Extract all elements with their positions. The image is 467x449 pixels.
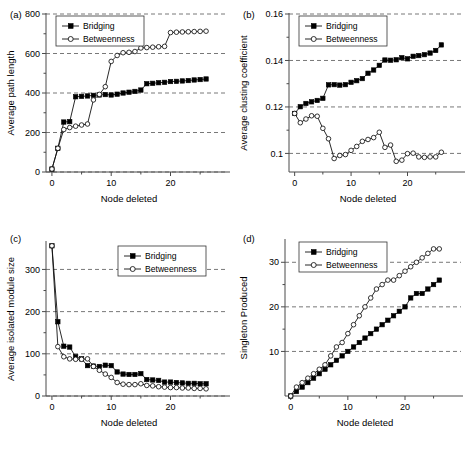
data-point (162, 380, 166, 384)
data-point (186, 78, 190, 82)
data-point (109, 363, 113, 367)
data-point (391, 314, 395, 318)
data-point (198, 29, 203, 34)
y-tick-label: 30 (269, 257, 279, 267)
data-point (315, 98, 319, 102)
data-point (414, 291, 418, 295)
y-axis-title: Average clusting coefficient (238, 35, 249, 151)
data-point (127, 372, 131, 376)
data-point (198, 382, 202, 386)
data-point (349, 148, 354, 153)
data-point (422, 155, 427, 160)
data-point (168, 79, 172, 83)
data-point (162, 385, 167, 390)
panel-label: (a) (10, 9, 22, 20)
chart-svg-a: 020040060080001020Node deletedAverage pa… (0, 0, 233, 224)
x-tick-label: 0 (49, 178, 54, 188)
data-point (192, 78, 196, 82)
data-point (380, 322, 384, 326)
data-point (360, 76, 364, 80)
data-point (332, 156, 337, 161)
data-point (73, 124, 78, 129)
data-point (139, 371, 143, 375)
data-point (103, 372, 108, 377)
data-point (388, 143, 393, 148)
data-point (304, 101, 308, 105)
data-point (97, 368, 102, 373)
data-point (355, 78, 359, 82)
data-point (371, 135, 376, 140)
data-point (133, 372, 137, 376)
legend-label: Betweenness (145, 264, 197, 274)
y-tick-label: 300 (25, 265, 40, 275)
legend-marker-bridging (311, 24, 316, 29)
legend-marker-bridging (130, 254, 135, 259)
data-point (403, 269, 408, 274)
data-point (386, 318, 390, 322)
y-tick-label: 0.16 (265, 9, 283, 19)
data-point (357, 340, 361, 344)
x-ticks-a: 01020 (49, 172, 200, 188)
data-point (351, 322, 356, 327)
series-betweenness (292, 111, 443, 163)
y-ticks-b: 0.10.120.140.16 (265, 9, 289, 158)
data-point (431, 247, 436, 252)
data-point (121, 372, 125, 376)
x-tick-label: 20 (165, 402, 175, 412)
y-tick-label: 200 (25, 307, 40, 317)
gridlines-d (285, 262, 461, 351)
data-point (103, 363, 107, 367)
series-betweenness (50, 29, 209, 171)
data-point (397, 273, 402, 278)
data-point (357, 313, 362, 318)
data-point (156, 384, 161, 389)
data-point (50, 244, 55, 249)
data-point (288, 394, 293, 399)
data-point (411, 151, 416, 156)
data-point (439, 150, 444, 155)
y-tick-label: 600 (25, 49, 40, 59)
y-tick-label: 0.1 (270, 149, 283, 159)
chart-svg-d: 10203001020Node deletedSingleton Produce… (233, 224, 466, 448)
data-point (121, 91, 125, 95)
y-ticks-c: 0100200300 (25, 265, 46, 402)
legend-marker-betweenness (311, 37, 316, 42)
legend-label: Bridging (145, 251, 177, 261)
legend-marker-bridging (311, 250, 316, 255)
data-point (192, 386, 197, 391)
panel-label: (d) (243, 233, 255, 244)
gridlines-c (46, 269, 228, 396)
data-point (354, 144, 359, 149)
data-point (403, 305, 407, 309)
data-point (192, 29, 197, 34)
data-point (321, 126, 326, 131)
data-point (109, 93, 113, 97)
data-point (411, 54, 415, 58)
y-axis-title: Average path length (5, 51, 16, 136)
data-point (360, 139, 365, 144)
x-ticks-b: 01020 (292, 172, 436, 188)
data-point (329, 363, 333, 367)
data-point (433, 155, 438, 160)
data-point (79, 357, 84, 362)
data-point (383, 145, 388, 150)
data-point (298, 105, 302, 109)
data-point (127, 90, 131, 94)
data-point (133, 49, 138, 54)
data-point (340, 354, 344, 358)
x-tick-label: 10 (346, 178, 356, 188)
y-tick-label: 0 (35, 167, 40, 177)
data-point (156, 44, 161, 49)
data-point (56, 344, 61, 349)
data-point (426, 287, 430, 291)
legend-marker-betweenness (311, 263, 316, 268)
data-point (204, 29, 209, 34)
data-point (317, 367, 322, 372)
legend-label: Bridging (83, 21, 115, 31)
data-point (144, 383, 149, 388)
data-point (145, 377, 149, 381)
data-point (62, 344, 66, 348)
data-point (168, 380, 172, 384)
chart-svg-c: 010020030001020Node deletedAverage isola… (0, 224, 233, 448)
data-point (394, 58, 398, 62)
